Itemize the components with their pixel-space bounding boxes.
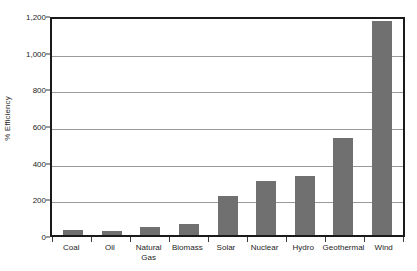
x-tick-mark (247, 237, 248, 242)
x-axis-tick-labels: CoalOilNatural GasBiomassSolarNuclearHyd… (50, 243, 405, 271)
y-tick-mark (46, 90, 50, 91)
x-tick-label: Nuclear (245, 243, 284, 271)
x-tick-label: Oil (91, 243, 130, 271)
x-tick-mark (403, 237, 404, 242)
bar-slot (247, 19, 286, 235)
bar (256, 181, 276, 235)
y-tick-mark (46, 53, 50, 54)
bar (140, 227, 160, 235)
bar-slot (54, 19, 93, 235)
bar-slot (324, 19, 363, 235)
x-tick-mark (52, 237, 53, 242)
x-tick-mark (364, 237, 365, 242)
x-tick-mark (286, 237, 287, 242)
bar-chart: % Efficiency 02004006008001,0001,200 Coa… (0, 0, 417, 271)
x-tick-mark (169, 237, 170, 242)
bar-slot (170, 19, 209, 235)
y-axis-tick-labels: 02004006008001,0001,200 (14, 0, 50, 271)
x-tick-label: Biomass (168, 243, 207, 271)
y-tick-label: 400 (33, 159, 46, 168)
y-tick-label: 800 (33, 86, 46, 95)
bar-slot (131, 19, 170, 235)
bar (372, 21, 392, 236)
x-tick-mark (325, 237, 326, 242)
bar (218, 196, 238, 235)
bar (295, 176, 315, 235)
y-tick-mark (46, 17, 50, 18)
x-tick-label: Solar (207, 243, 246, 271)
bar (333, 138, 353, 235)
y-axis-title: % Efficiency (0, 0, 14, 237)
y-axis-title-text: % Efficiency (3, 96, 12, 141)
plot-area (50, 17, 405, 237)
x-tick-label: Wind (364, 243, 403, 271)
x-tick-label: Geothermal (323, 243, 365, 271)
bar (102, 231, 122, 235)
x-tick-label: Hydro (284, 243, 323, 271)
x-tick-label: Coal (52, 243, 91, 271)
bar-slot (208, 19, 247, 235)
y-tick-label: 600 (33, 123, 46, 132)
x-tick-mark (130, 237, 131, 242)
y-tick-mark (46, 163, 50, 164)
y-tick-mark (46, 127, 50, 128)
bar (179, 224, 199, 235)
bars-group (52, 19, 403, 235)
x-tick-label: Natural Gas (129, 243, 168, 271)
y-tick-mark (46, 237, 50, 238)
y-tick-label: 1,200 (26, 13, 46, 22)
bar-slot (285, 19, 324, 235)
x-tick-mark (208, 237, 209, 242)
y-tick-mark (46, 200, 50, 201)
bar-slot (93, 19, 132, 235)
bar (63, 230, 83, 235)
bar-slot (363, 19, 402, 235)
y-tick-label: 1,000 (26, 49, 46, 58)
x-tick-mark (91, 237, 92, 242)
y-tick-label: 200 (33, 196, 46, 205)
